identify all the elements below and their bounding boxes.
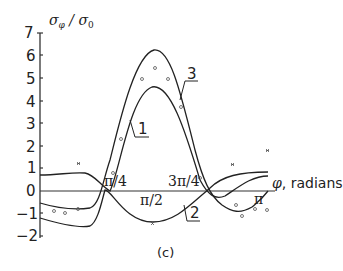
svg-text:1: 1 [27, 159, 37, 177]
x-axis-title: φ, radians [272, 175, 343, 191]
svg-text:−1: −1 [16, 205, 38, 223]
svg-text:1: 1 [138, 120, 148, 138]
svg-text:3: 3 [187, 65, 197, 83]
svg-text:φ, radians: φ, radians [272, 175, 343, 191]
y-axis-title: σφ / σ0 [49, 12, 94, 30]
curve-label-3: 3 [180, 65, 198, 100]
x-tick-pi: π [254, 191, 263, 207]
svg-text:σφ / σ0: σφ / σ0 [49, 12, 94, 30]
svg-text:2: 2 [190, 204, 200, 222]
y-tick-labels: 7 6 5 4 3 2 1 0 −1 −2 [16, 24, 38, 245]
svg-text:0: 0 [26, 182, 36, 200]
svg-text:5: 5 [26, 70, 36, 88]
svg-text:3: 3 [26, 115, 36, 133]
svg-text:−2: −2 [16, 227, 38, 245]
x-tick-3pi-quarter: 3π/4 [168, 173, 200, 189]
svg-text:4: 4 [26, 93, 36, 111]
curve-label-1: 1 [130, 120, 149, 138]
svg-text:2: 2 [26, 138, 36, 156]
x-tick-pi-half: π/2 [140, 192, 163, 208]
svg-text:7: 7 [24, 24, 34, 42]
curve-label-2: 2 [184, 204, 200, 222]
curve-3 [40, 50, 268, 211]
curve-1 [40, 87, 268, 198]
x-tick-pi-quarter: π/4 [104, 173, 127, 189]
stress-chart: 7 6 5 4 3 2 1 0 −1 −2 σφ / σ0 [0, 0, 343, 271]
svg-text:6: 6 [26, 47, 36, 65]
figure-caption: (c) [157, 245, 174, 260]
